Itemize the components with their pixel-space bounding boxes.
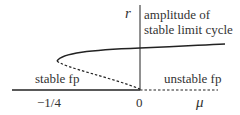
stable-fp-label: stable fp (35, 72, 79, 86)
limit-cycle-label-line1: amplitude of (144, 8, 210, 22)
tick-neg-quarter: −1/4 (37, 96, 61, 110)
unstable-fp-label: unstable fp (164, 72, 221, 86)
limit-cycle-label-line2: stable limit cycle (144, 23, 233, 37)
mu-axis-label: μ (196, 95, 204, 109)
tick-zero: 0 (136, 96, 143, 110)
stable-limit-cycle-branch (57, 44, 225, 61)
r-axis-label: r (125, 6, 131, 20)
